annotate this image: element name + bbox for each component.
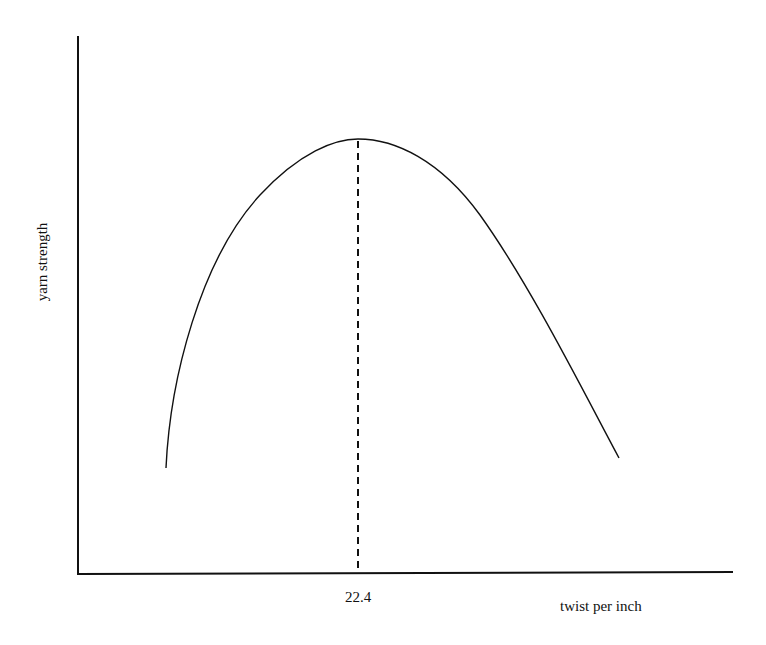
x-axis [77, 572, 733, 574]
x-axis-label: twist per inch [560, 598, 642, 615]
y-axis-label: yarn strength [34, 223, 51, 302]
strength-curve [166, 139, 619, 468]
chart-canvas [0, 0, 766, 645]
x-tick-label: 22.4 [345, 589, 371, 606]
